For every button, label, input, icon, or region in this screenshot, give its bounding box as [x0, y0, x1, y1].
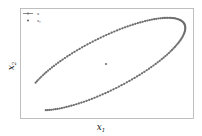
- trajectory-marker: [150, 66, 152, 68]
- trajectory-marker: [161, 17, 163, 19]
- trajectory-marker: [169, 50, 171, 52]
- trajectory-marker: [108, 33, 110, 35]
- trajectory-marker: [40, 76, 42, 78]
- trajectory-marker: [123, 83, 125, 85]
- trajectory-marker: [76, 49, 78, 51]
- trajectory-marker: [121, 27, 123, 29]
- trajectory-marker: [107, 91, 109, 93]
- trajectory-marker: [143, 71, 145, 73]
- trajectory-marker: [73, 104, 75, 106]
- trajectory-marker: [56, 108, 58, 110]
- trajectory-marker: [133, 77, 135, 79]
- reference-point-xr: [105, 63, 107, 65]
- trajectory-marker: [112, 88, 114, 90]
- trajectory-marker: [83, 101, 85, 103]
- chart-figure: x xr x1 x2: [0, 0, 202, 136]
- trajectory-marker: [104, 92, 106, 94]
- trajectory-marker: [127, 25, 129, 27]
- trajectory-marker: [141, 72, 143, 74]
- trajectory-marker: [113, 30, 115, 32]
- trajectory-marker: [159, 60, 161, 62]
- trajectory-marker: [166, 53, 168, 55]
- trajectory-marker: [139, 21, 141, 23]
- trajectory-marker: [94, 39, 96, 41]
- reference-marker: [105, 63, 107, 65]
- trajectory-marker: [88, 99, 90, 101]
- trajectory-marker: [126, 81, 128, 83]
- trajectory-marker: [119, 28, 121, 30]
- trajectory-marker: [155, 63, 157, 65]
- trajectory-marker: [84, 45, 86, 47]
- trajectory-marker: [59, 60, 61, 62]
- trajectory-marker: [53, 65, 55, 67]
- trajectory-marker: [68, 105, 70, 107]
- trajectory-marker: [118, 86, 120, 88]
- legend-marker-icon: [27, 19, 29, 21]
- trajectory-marker: [146, 19, 148, 21]
- trajectory-marker: [159, 17, 161, 19]
- trajectory-marker: [137, 22, 139, 24]
- trajectory-marker: [63, 106, 65, 108]
- trajectory-marker: [80, 102, 82, 104]
- trajectory-marker: [65, 106, 67, 108]
- trajectory-marker: [163, 57, 165, 59]
- trajectory-marker: [91, 98, 93, 100]
- trajectory-marker: [157, 17, 159, 19]
- trajectory-marker: [50, 109, 52, 111]
- trajectory-marker: [128, 80, 130, 82]
- trajectory-marker: [124, 26, 126, 28]
- trajectory-marker: [116, 29, 118, 31]
- trajectory-marker: [81, 46, 83, 48]
- trajectory-marker: [79, 48, 81, 50]
- trajectory-marker: [93, 97, 95, 99]
- trajectory-marker: [54, 108, 56, 110]
- trajectory-marker: [97, 38, 99, 40]
- trajectory-marker: [99, 94, 101, 96]
- trajectory-marker: [62, 58, 64, 60]
- trajectory-marker: [75, 103, 77, 105]
- trajectory-marker: [153, 18, 155, 20]
- trajectory-marker: [86, 100, 88, 102]
- trajectory-marker: [73, 51, 75, 53]
- trajectory-marker: [100, 36, 102, 38]
- trajectory-marker: [164, 55, 166, 57]
- trajectory-marker: [69, 54, 71, 56]
- figure-background: [0, 0, 202, 136]
- trajectory-marker: [86, 43, 88, 45]
- trajectory-marker: [142, 21, 144, 23]
- trajectory-marker: [149, 19, 151, 21]
- trajectory-marker: [61, 107, 63, 109]
- trajectory-marker: [47, 70, 49, 72]
- trajectory-marker: [151, 18, 153, 20]
- trajectory-marker: [89, 42, 91, 44]
- trajectory-marker: [59, 107, 61, 109]
- trajectory-marker: [48, 109, 50, 111]
- trajectory-marker: [168, 52, 170, 54]
- trajectory-marker: [66, 55, 68, 57]
- trajectory-marker: [136, 75, 138, 77]
- trajectory-marker: [45, 71, 47, 73]
- trajectory-marker: [55, 63, 57, 65]
- trajectory-marker: [102, 35, 104, 37]
- trajectory-marker: [52, 108, 54, 110]
- trajectory-marker: [152, 64, 154, 66]
- trajectory-marker: [42, 74, 44, 76]
- trajectory-marker: [157, 61, 159, 63]
- trajectory-marker: [96, 96, 98, 98]
- trajectory-marker: [155, 18, 157, 20]
- trajectory-marker: [129, 24, 131, 26]
- trajectory-marker: [57, 62, 59, 64]
- legend-marker-icon: [27, 12, 29, 14]
- trajectory-marker: [138, 74, 140, 76]
- trajectory-marker: [134, 23, 136, 25]
- trajectory-marker: [146, 69, 148, 71]
- trajectory-marker: [115, 87, 117, 89]
- trajectory-marker: [132, 24, 134, 26]
- trajectory-marker: [102, 93, 104, 95]
- trajectory-marker: [71, 52, 73, 54]
- trajectory-marker: [51, 66, 53, 68]
- trajectory-marker: [148, 68, 150, 70]
- trajectory-marker: [64, 57, 66, 59]
- trajectory-marker: [110, 90, 112, 92]
- trajectory-marker: [161, 58, 163, 60]
